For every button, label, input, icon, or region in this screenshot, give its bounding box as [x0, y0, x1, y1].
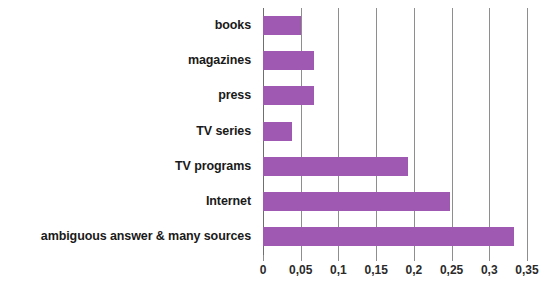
category-label: press: [218, 78, 251, 113]
x-tick-label: 0,35: [515, 263, 538, 277]
bar-row: [263, 114, 527, 149]
tick-mark: [376, 255, 377, 261]
category-label: TV programs: [175, 149, 251, 184]
tick-mark: [452, 255, 453, 261]
bar-series: [263, 8, 527, 255]
x-tick-label: 0,3: [481, 263, 498, 277]
bar-row: [263, 184, 527, 219]
tick-mark: [414, 255, 415, 261]
bar: [263, 122, 292, 141]
tick-mark: [338, 255, 339, 261]
bar: [263, 227, 514, 246]
bar-row: [263, 8, 527, 43]
category-axis-labels: books magazines press TV series TV progr…: [0, 8, 257, 255]
x-tick-label: 0,1: [330, 263, 347, 277]
tick-mark: [263, 255, 264, 261]
tick-mark: [489, 255, 490, 261]
x-tick-label: 0,2: [406, 263, 423, 277]
bar-row: [263, 219, 527, 254]
x-tick-label: 0,05: [289, 263, 312, 277]
bar: [263, 157, 408, 176]
bar: [263, 86, 314, 105]
bar-row: [263, 43, 527, 78]
category-label: magazines: [188, 43, 251, 78]
bar: [263, 51, 314, 70]
bar-chart: books magazines press TV series TV progr…: [0, 0, 541, 285]
category-label: ambiguous answer & many sources: [41, 219, 251, 254]
bar-row: [263, 149, 527, 184]
plot-area: [263, 8, 527, 255]
x-tick-label: 0: [260, 263, 267, 277]
gridline: [527, 8, 528, 255]
category-label: Internet: [206, 184, 251, 219]
bar: [263, 192, 450, 211]
x-tick-label: 0,25: [440, 263, 463, 277]
category-label: TV series: [196, 114, 251, 149]
x-tick-label: 0,15: [364, 263, 387, 277]
tick-mark: [527, 255, 528, 261]
bar-row: [263, 78, 527, 113]
x-axis-tick-labels: 00,050,10,150,20,250,30,35: [263, 263, 527, 283]
tick-mark: [301, 255, 302, 261]
category-label: books: [215, 8, 251, 43]
bar: [263, 16, 301, 35]
